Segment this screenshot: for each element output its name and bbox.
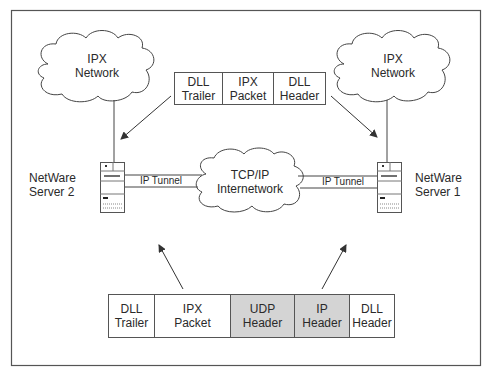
packet-cell-dll-trailer: DLL Trailer <box>175 73 223 104</box>
arrow-bottom-right <box>322 245 346 289</box>
cell-line: DLL <box>288 75 310 89</box>
cell-line: DLL <box>120 302 142 316</box>
server-icon-left <box>100 162 125 213</box>
packet-cell-dll-trailer: DLL Trailer <box>109 295 155 337</box>
cell-line: IPX <box>183 302 202 316</box>
cell-line: Header <box>352 316 391 330</box>
ipx-packet-frame: DLL Trailer IPX Packet DLL Header <box>174 72 326 105</box>
cell-line: Trailer <box>182 89 216 103</box>
cell-line: Header <box>302 316 341 330</box>
cell-line: UDP <box>250 302 275 316</box>
arrow-top-right <box>331 96 377 137</box>
encapsulated-packet-frame: DLL Trailer IPX Packet UDP Header IP Hea… <box>108 294 395 338</box>
ip-tunnel-right-label: IP Tunnel <box>322 176 364 187</box>
label-line: Network <box>358 66 428 80</box>
cell-line: IP <box>316 302 327 316</box>
label-line: NetWare <box>29 171 89 185</box>
label-line: IPX <box>358 52 428 66</box>
packet-cell-ip-header: IP Header <box>295 295 350 337</box>
cell-line: Header <box>280 89 319 103</box>
cell-line: Trailer <box>115 316 149 330</box>
ipx-network-right-label: IPX Network <box>358 52 428 80</box>
packet-cell-dll-header: DLL Header <box>274 73 325 104</box>
cell-line: Packet <box>174 316 211 330</box>
server-icon-right <box>377 162 402 213</box>
cell-line: DLL <box>187 75 209 89</box>
arrow-top-left <box>121 96 171 139</box>
label-line: Network <box>62 66 132 80</box>
ip-tunnel-left-label: IP Tunnel <box>140 175 182 186</box>
packet-cell-dll-header: DLL Header <box>350 295 394 337</box>
packet-cell-ipx-packet: IPX Packet <box>155 295 231 337</box>
ipx-network-left-label: IPX Network <box>62 52 132 80</box>
label-line: Server 1 <box>415 185 475 199</box>
cell-line: IPX <box>238 75 257 89</box>
label-line: Server 2 <box>29 185 89 199</box>
netware-server-1-label: NetWare Server 1 <box>415 171 475 199</box>
label-line: NetWare <box>415 171 475 185</box>
cell-line: Packet <box>230 89 267 103</box>
netware-server-2-label: NetWare Server 2 <box>29 171 89 199</box>
packet-cell-udp-header: UDP Header <box>231 295 295 337</box>
arrow-bottom-left <box>159 245 183 289</box>
label-line: Internetwork <box>208 182 292 196</box>
tcpip-internetwork-label: TCP/IP Internetwork <box>208 168 292 196</box>
packet-cell-ipx-packet: IPX Packet <box>223 73 274 104</box>
cell-line: Header <box>243 316 282 330</box>
ipx-over-ip-tunnel-diagram: IPX Network IPX Network TCP/IP Internetw… <box>0 0 492 379</box>
label-line: IPX <box>62 52 132 66</box>
cell-line: DLL <box>361 302 383 316</box>
label-line: TCP/IP <box>208 168 292 182</box>
